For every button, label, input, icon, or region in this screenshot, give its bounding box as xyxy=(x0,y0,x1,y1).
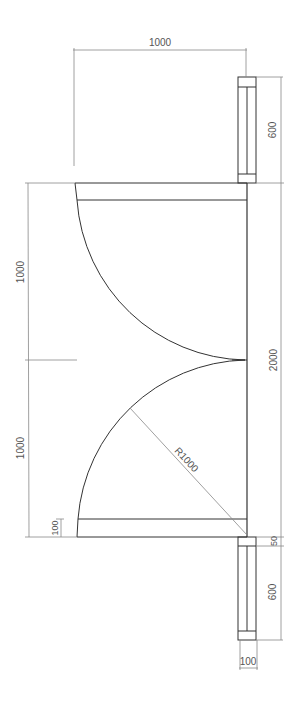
top-post xyxy=(238,77,256,183)
top-post-height-label: 600 xyxy=(267,121,278,138)
left-dimensions xyxy=(25,183,77,537)
bottom-post xyxy=(238,537,256,640)
gap-label: 50 xyxy=(269,536,279,546)
post-width-label: 100 xyxy=(240,656,257,667)
upper-swing-arc xyxy=(77,200,245,360)
radius-leader xyxy=(130,408,247,535)
lower-leaf-label: 1000 xyxy=(15,436,26,459)
top-width-label: 1000 xyxy=(149,37,172,48)
bottom-post-height-label: 600 xyxy=(267,583,278,600)
lower-swing-arc xyxy=(78,360,245,519)
overall-opening-label: 2000 xyxy=(268,348,279,371)
drawing-canvas: R1000 1000 600 2000 50 600 100 1000 1000… xyxy=(0,0,300,707)
upper-leaf-label: 1000 xyxy=(15,260,26,283)
lower-door-leaf xyxy=(77,519,247,537)
top-width-dimension xyxy=(73,48,247,166)
upper-door-leaf xyxy=(75,183,247,200)
panel-thickness-label: 100 xyxy=(50,520,60,535)
